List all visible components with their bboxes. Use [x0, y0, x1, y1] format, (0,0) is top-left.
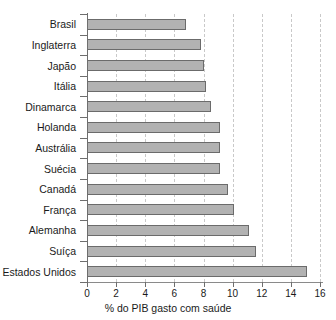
gridline-16 — [320, 14, 321, 282]
y-axis-tick-label: Estados Unidos — [2, 266, 76, 278]
y-axis-tick — [80, 200, 87, 201]
y-axis-tick-label: Dinamarca — [25, 101, 76, 113]
bar-row — [87, 55, 320, 76]
y-axis-tick — [80, 241, 87, 242]
plot-area — [87, 14, 320, 282]
bar — [87, 101, 211, 112]
bar-row — [87, 179, 320, 200]
bar-row — [87, 35, 320, 56]
y-axis-tick-label: Holanda — [37, 121, 76, 133]
bar — [87, 19, 186, 30]
x-axis-tick-label: 4 — [142, 288, 148, 300]
y-axis-tick — [80, 179, 87, 180]
y-axis-tick-label: Brasil — [50, 18, 76, 30]
x-axis-tick — [320, 282, 321, 287]
bar-row — [87, 220, 320, 241]
x-axis-tick-label: 10 — [227, 288, 238, 300]
bar — [87, 142, 220, 153]
y-axis-tick — [80, 55, 87, 56]
y-axis-tick — [80, 261, 87, 262]
x-axis-tick — [174, 282, 175, 287]
x-axis-tick — [262, 282, 263, 287]
y-axis-tick — [80, 14, 87, 15]
bar — [87, 60, 204, 71]
x-axis-title: % do PIB gasto com saúde — [0, 302, 336, 314]
bar-row — [87, 138, 320, 159]
x-axis-tick — [116, 282, 117, 287]
x-axis-tick-label: 2 — [113, 288, 119, 300]
bar — [87, 122, 220, 133]
y-axis-tick — [80, 158, 87, 159]
bar-chart: 0246810121416 BrasilInglaterraJapãoItáli… — [0, 0, 336, 320]
x-axis-tick-label: 14 — [285, 288, 296, 300]
x-axis-tick-label: 12 — [256, 288, 267, 300]
y-axis-tick-label: Alemanha — [29, 224, 76, 236]
x-axis-tick-label: 6 — [172, 288, 178, 300]
x-axis-tick — [233, 282, 234, 287]
y-axis-tick — [80, 220, 87, 221]
y-axis-tick — [80, 138, 87, 139]
x-axis-tick — [87, 282, 88, 287]
y-axis-line — [87, 13, 88, 283]
x-axis-tick — [145, 282, 146, 287]
y-axis-tick-label: Austrália — [35, 142, 76, 154]
bar — [87, 204, 234, 215]
bar — [87, 225, 249, 236]
y-axis-tick-label: Suécia — [44, 163, 76, 175]
bar-row — [87, 158, 320, 179]
bar — [87, 163, 220, 174]
y-axis-tick-label: França — [43, 204, 76, 216]
bar — [87, 81, 206, 92]
x-axis-tick-label: 0 — [84, 288, 90, 300]
x-axis-tick-label: 8 — [201, 288, 207, 300]
y-axis-tick-label: Canadá — [39, 183, 76, 195]
y-axis-tick — [80, 35, 87, 36]
x-axis-tick — [204, 282, 205, 287]
bar-row — [87, 76, 320, 97]
bar-row — [87, 261, 320, 282]
y-axis-tick-label: Inglaterra — [32, 39, 76, 51]
bar-row — [87, 241, 320, 262]
bar — [87, 246, 256, 257]
y-axis-tick-label: Itália — [54, 80, 76, 92]
bar-series — [87, 14, 320, 282]
bar-row — [87, 14, 320, 35]
bar-row — [87, 96, 320, 117]
bar — [87, 184, 228, 195]
bar — [87, 266, 307, 277]
y-axis-tick — [80, 76, 87, 77]
y-axis-tick — [80, 282, 87, 283]
x-axis-tick-label: 16 — [314, 288, 325, 300]
x-axis-tick — [291, 282, 292, 287]
bar-row — [87, 117, 320, 138]
y-axis-tick-label: Japão — [47, 60, 76, 72]
y-axis-tick — [80, 117, 87, 118]
bar — [87, 39, 201, 50]
y-axis-tick — [80, 96, 87, 97]
bar-row — [87, 199, 320, 220]
y-axis-tick-label: Suíça — [49, 245, 76, 257]
